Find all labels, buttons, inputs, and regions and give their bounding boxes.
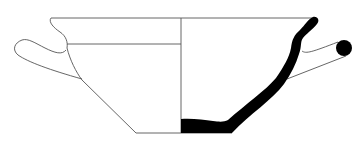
handle-section-circle	[336, 40, 352, 56]
left-handle-outline	[15, 40, 82, 79]
left-body-outline	[50, 18, 136, 133]
pottery-drawing: Section and elevation drawing of a two-h…	[0, 0, 362, 143]
section-profile	[181, 17, 352, 133]
exterior-elevation	[15, 18, 316, 133]
cup-profile-svg	[0, 0, 362, 143]
